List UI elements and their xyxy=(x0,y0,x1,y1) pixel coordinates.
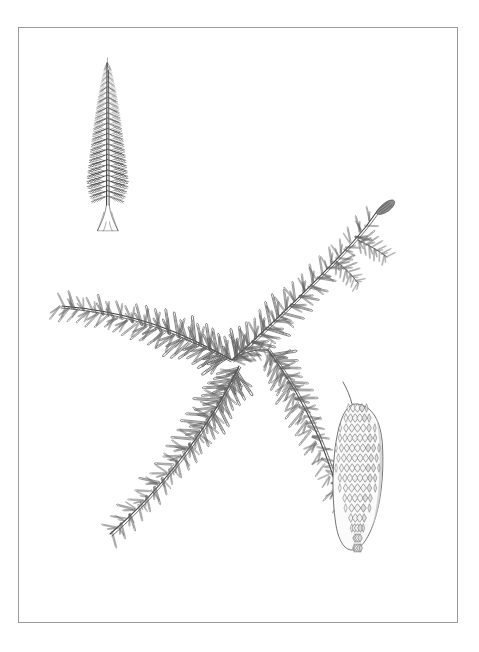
botanical-illustration: .ndl{fill:none;stroke:#585858;stroke-wid… xyxy=(0,0,479,652)
illustration-plate: .ndl{fill:none;stroke:#585858;stroke-wid… xyxy=(0,0,479,652)
